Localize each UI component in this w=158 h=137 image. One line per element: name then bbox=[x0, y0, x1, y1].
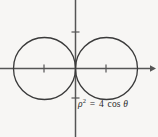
equation-cosine-function: cos bbox=[106, 99, 120, 109]
polar-curve-figure: ρ2 = 4 cos θ bbox=[0, 0, 158, 137]
equation-coefficient: 4 bbox=[99, 99, 104, 109]
equation-equals-sign: = bbox=[89, 99, 97, 109]
equation-exponent: 2 bbox=[83, 97, 86, 104]
equation-label: ρ2 = 4 cos θ bbox=[78, 100, 128, 110]
figure-canvas bbox=[0, 0, 158, 137]
equation-theta-symbol: θ bbox=[123, 99, 128, 109]
